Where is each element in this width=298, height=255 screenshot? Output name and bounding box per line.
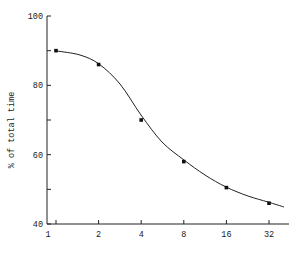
curve-path: [57, 51, 284, 207]
y-tick-label: 100: [28, 12, 43, 22]
y-tick-label: 40: [33, 220, 43, 230]
data-point-marker: [225, 186, 229, 190]
x-tick-label: 32: [264, 230, 274, 240]
data-point-marker: [139, 118, 143, 122]
y-tick-label: 80: [33, 81, 43, 91]
chart: 40608010012481632 % of total time: [0, 0, 298, 255]
data-point-marker: [54, 49, 58, 53]
x-tick-label: 4: [139, 230, 144, 240]
axes: [47, 16, 289, 224]
data-point-marker: [97, 63, 101, 67]
x-tick-label: 1: [45, 230, 50, 240]
x-tick-label: 2: [96, 230, 101, 240]
x-tick-label: 8: [181, 230, 186, 240]
x-tick-label: 16: [221, 230, 231, 240]
data-point-marker: [267, 201, 271, 205]
fitted-curve: [57, 51, 284, 207]
ticks: 40608010012481632: [28, 12, 274, 240]
data-point-marker: [182, 160, 186, 164]
y-axis-title: % of total time: [7, 92, 17, 169]
data-points: [54, 49, 271, 205]
y-tick-label: 60: [33, 151, 43, 161]
